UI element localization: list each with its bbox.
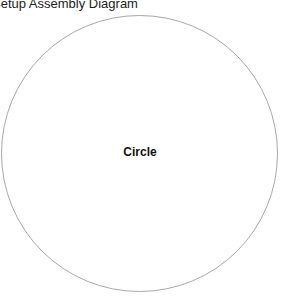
diagram-title: Setup Assembly Diagram <box>0 0 138 11</box>
circle-label: Circle <box>0 145 280 159</box>
